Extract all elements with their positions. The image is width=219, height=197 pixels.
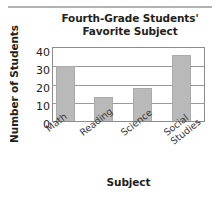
x-axis-tick-labels: Math Reading Science Social Studies <box>0 122 219 174</box>
chart-title-line-1: Fourth-Grade Students' <box>61 12 198 24</box>
x-axis-title: Subject <box>52 176 205 188</box>
header-rule <box>8 6 212 8</box>
plot-area <box>52 47 205 122</box>
y-tick-label-30: 30 <box>26 65 50 76</box>
y-axis-tick-labels: 40 30 20 10 0 <box>26 40 50 130</box>
y-tick-label-10: 10 <box>26 101 50 112</box>
bar-series <box>53 48 204 121</box>
y-tick-label-40: 40 <box>26 47 50 58</box>
bar-chart-figure: Fourth-Grade Students' Favorite Subject … <box>0 0 219 197</box>
y-tick-label-20: 20 <box>26 83 50 94</box>
chart-title-line-2: Favorite Subject <box>44 25 216 38</box>
chart-title: Fourth-Grade Students' Favorite Subject <box>44 12 216 37</box>
